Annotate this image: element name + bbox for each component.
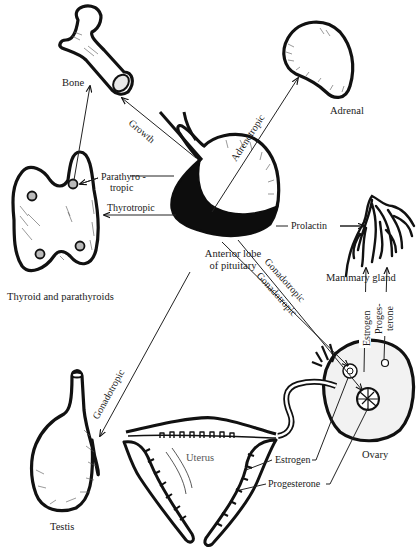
progesterone-mammary-label-line1: Proges- <box>373 303 384 334</box>
progesterone-uterus-label: Progesterone <box>268 478 321 489</box>
estrogen-uterus-pointer <box>246 460 272 470</box>
adrenal-organ <box>284 22 353 97</box>
gonadotropic-testis-label: Gonadotropic <box>90 367 127 421</box>
progesterone-mammary-label-line2: terone <box>384 305 395 331</box>
uterus-label: Uterus <box>186 452 214 463</box>
thyroid-label: Thyroid and parathyroids <box>7 291 114 302</box>
mammary-label: Mammary gland <box>326 272 396 283</box>
parathyroid-gland <box>69 180 78 189</box>
gonadotropic-ovary-arrow-2 <box>238 240 362 390</box>
mammary-gland-organ <box>346 196 414 276</box>
parathyrotropic-label-line1: Parathyro - <box>101 171 146 182</box>
bone-label: Bone <box>62 77 85 88</box>
testis-organ <box>32 371 99 511</box>
estrogen-uterus-label: Estrogen <box>275 454 311 465</box>
growth-label: Growth <box>127 117 157 145</box>
uterus-organ <box>124 344 336 545</box>
thyrotropic-label: Thyrotropic <box>107 202 155 213</box>
thyroid-organ <box>13 152 98 271</box>
estrogen-mammary-label: Estrogen <box>361 310 372 346</box>
pituitary-organ <box>160 112 279 236</box>
endocrine-diagram: Bone Adrenal Thyroid and parathyroids An… <box>0 0 420 554</box>
prolactin-label: Prolactin <box>291 220 327 231</box>
testis-label: Testis <box>50 521 74 532</box>
adrenal-label: Adrenal <box>330 105 364 116</box>
parathyrotropic-label-line2: tropic <box>110 182 134 193</box>
ovary-label: Ovary <box>362 449 389 460</box>
